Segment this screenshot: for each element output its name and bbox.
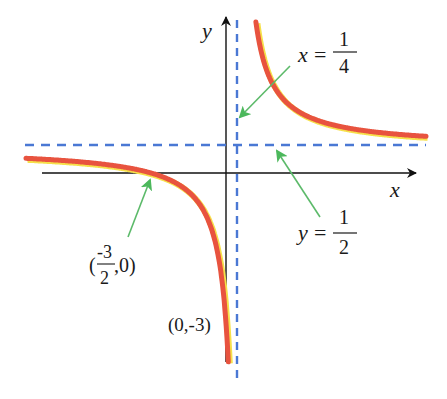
plot-canvas: y x x = 1 4 y = 1 2 ( -3 2 ,0) (0,-3) [0, 0, 447, 399]
rational-function-graph: y x x = 1 4 y = 1 2 ( -3 2 ,0) (0,-3) [0, 0, 447, 399]
svg-text:-3: -3 [97, 242, 112, 262]
svg-text:=: = [314, 220, 326, 245]
svg-text:x: x [297, 42, 308, 67]
svg-text:2: 2 [339, 236, 349, 258]
svg-text:=: = [314, 42, 326, 67]
svg-text:1: 1 [339, 206, 349, 228]
pointer-arrow-x-intercept [128, 180, 150, 237]
svg-text:4: 4 [339, 55, 349, 77]
vertical-asymptote-label: x = 1 4 [297, 28, 357, 77]
x-axis-label: x [389, 177, 400, 202]
svg-text:1: 1 [339, 28, 349, 50]
y-intercept-label: (0,-3) [168, 314, 211, 336]
pointer-arrow-horizontal-asymptote [277, 151, 320, 217]
pointer-arrow-vertical-asymptote [240, 66, 290, 117]
svg-text:2: 2 [100, 268, 109, 288]
y-axis-label: y [200, 18, 212, 43]
svg-text:(: ( [89, 254, 96, 277]
svg-text:,0): ,0) [114, 254, 136, 277]
horizontal-asymptote-label: y = 1 2 [296, 206, 357, 258]
svg-text:y: y [296, 220, 308, 245]
x-intercept-label: ( -3 2 ,0) [89, 242, 136, 288]
